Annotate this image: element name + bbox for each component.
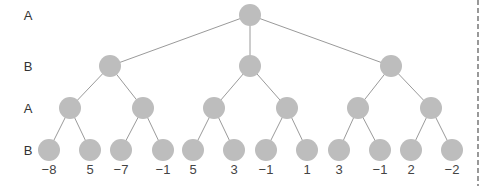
leaf-value: −7 <box>114 162 129 177</box>
leaf-node <box>255 139 277 161</box>
leaf-value: 5 <box>189 162 196 177</box>
leaf-node <box>182 139 204 161</box>
leaf-node <box>152 139 174 161</box>
tree-edge <box>110 15 250 66</box>
leaf-node <box>296 139 318 161</box>
leaf-value: 1 <box>303 162 310 177</box>
tree-node <box>380 55 402 77</box>
row-label-player: A <box>24 8 33 23</box>
tree-edge <box>250 15 391 66</box>
leaf-value: −1 <box>373 162 388 177</box>
leaf-node <box>400 139 422 161</box>
tree-node <box>239 4 261 26</box>
leaf-value: 5 <box>86 162 93 177</box>
tree-node <box>59 97 81 119</box>
leaf-value: 3 <box>335 162 342 177</box>
leaf-node <box>79 139 101 161</box>
leaf-node <box>110 139 132 161</box>
tree-node <box>132 97 154 119</box>
row-label-player: A <box>24 101 33 116</box>
leaf-value: −1 <box>156 162 171 177</box>
row-label-player: B <box>24 143 33 158</box>
tree-node <box>347 97 369 119</box>
row-label-player: B <box>24 59 33 74</box>
leaf-node <box>441 139 463 161</box>
leaf-value: 3 <box>230 162 237 177</box>
tree-node <box>203 97 225 119</box>
leaf-value: −8 <box>42 162 57 177</box>
leaf-node <box>369 139 391 161</box>
leaf-node <box>328 139 350 161</box>
game-tree-diagram: ABAB−85−7−153−113−12−2 <box>0 0 486 186</box>
tree-node <box>276 97 298 119</box>
tree-node <box>420 97 442 119</box>
leaf-node <box>38 139 60 161</box>
tree-node <box>99 55 121 77</box>
leaf-value: −2 <box>445 162 460 177</box>
leaf-value: 2 <box>407 162 414 177</box>
tree-canvas <box>0 0 486 186</box>
leaf-value: −1 <box>259 162 274 177</box>
tree-node <box>239 55 261 77</box>
leaf-node <box>223 139 245 161</box>
